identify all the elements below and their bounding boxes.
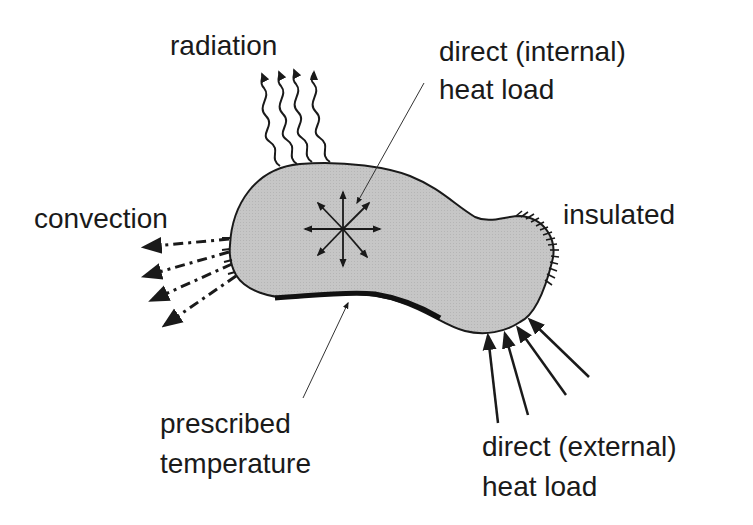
external-load-label-line2: heat load — [482, 468, 597, 506]
convection-arrows — [145, 239, 236, 325]
prescribed-label-line2: temperature — [160, 445, 311, 483]
prescribed-leader — [303, 303, 348, 398]
internal-load-label-line1: direct (internal) — [439, 33, 626, 71]
radiation-arrows — [261, 70, 330, 166]
internal-load-label-line2: heat load — [439, 71, 554, 109]
external-load-arrows — [488, 320, 589, 423]
external-load-label-line1: direct (external) — [482, 428, 677, 466]
solid-body — [230, 163, 554, 333]
radiation-label: radiation — [170, 27, 277, 65]
convection-label: convection — [34, 200, 168, 238]
insulated-label: insulated — [563, 196, 675, 234]
heat-transfer-diagram: radiation direct (internal) heat load co… — [0, 0, 753, 525]
prescribed-label-line1: prescribed — [160, 405, 291, 443]
